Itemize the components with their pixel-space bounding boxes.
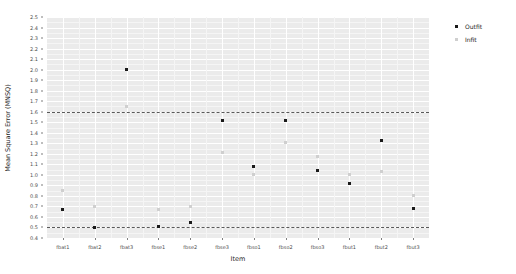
y-axis-tick-mark — [41, 69, 43, 70]
data-point-outfit-fbat3 — [125, 68, 128, 71]
x-axis-tick-label-fbat3: fbat3 — [120, 244, 133, 250]
y-axis-tick-mark — [41, 206, 43, 207]
data-point-outfit-fbso3 — [316, 169, 319, 172]
gridline-vertical-minor — [365, 17, 366, 238]
legend-marker-icon — [455, 25, 458, 28]
gridline-vertical — [381, 17, 382, 238]
gridline-vertical — [222, 17, 223, 238]
data-point-infit-fbut3 — [412, 194, 415, 197]
x-axis-tick-label-fbso2: fbso2 — [279, 244, 293, 250]
x-axis-tick-mark — [318, 238, 319, 240]
legend: OutfitInfit — [452, 20, 514, 46]
y-axis-tick-mark — [41, 38, 43, 39]
data-point-infit-fbut2 — [380, 170, 383, 173]
legend-marker-icon — [455, 38, 458, 41]
y-axis-tick-mark — [41, 17, 43, 18]
x-axis-tick-label-fbut3: fbut3 — [406, 244, 419, 250]
gridline-vertical — [318, 17, 319, 238]
x-axis-tick-mark — [127, 238, 128, 240]
y-axis-tick-mark — [41, 132, 43, 133]
gridline-vertical — [254, 17, 255, 238]
y-axis-tick-label: 1.9 — [30, 78, 38, 83]
data-point-infit-fbat3 — [125, 105, 128, 108]
data-point-outfit-fbat2 — [93, 226, 96, 229]
y-axis-tick-label: 0.5 — [30, 225, 38, 230]
y-axis-tick-label: 2.5 — [30, 15, 38, 20]
x-axis-tick-mark — [63, 238, 64, 240]
gridline-vertical-minor — [143, 17, 144, 238]
gridline-vertical-minor — [270, 17, 271, 238]
gridline-vertical-minor — [238, 17, 239, 238]
data-point-infit-fbut1 — [348, 173, 351, 176]
y-axis-tick-mark — [41, 216, 43, 217]
x-axis-tick-label-fbse2: fbse2 — [183, 244, 197, 250]
x-axis-title: Item — [47, 255, 429, 263]
data-point-infit-fbse1 — [157, 208, 160, 211]
data-point-infit-fbat1 — [61, 189, 64, 192]
data-point-outfit-fbso1 — [252, 165, 255, 168]
y-axis-tick-label: 1.3 — [30, 141, 38, 146]
y-axis-tick-mark — [41, 80, 43, 81]
data-point-infit-fbso1 — [252, 173, 255, 176]
y-axis-tick-label: 1.7 — [30, 99, 38, 104]
x-axis-tick-label-fbse3: fbse3 — [215, 244, 229, 250]
data-point-infit-fbat2 — [93, 205, 96, 208]
data-point-outfit-fbse3 — [221, 119, 224, 122]
lower-reference-line — [47, 227, 429, 228]
plot-panel — [47, 17, 429, 238]
y-axis-tick-mark — [41, 185, 43, 186]
x-axis-tick-label-fbut1: fbut1 — [343, 244, 356, 250]
y-axis-tick-label: 1.6 — [30, 109, 38, 114]
y-axis-tick-label: 1.1 — [30, 162, 38, 167]
y-axis-tick-label: 2.4 — [30, 25, 38, 30]
x-axis-tick-mark — [349, 238, 350, 240]
y-axis-tick-mark — [41, 122, 43, 123]
y-axis-tick-mark — [41, 101, 43, 102]
y-axis-tick-label: 1.8 — [30, 88, 38, 93]
gridline-vertical — [349, 17, 350, 238]
y-axis-tick-labels: 0.40.50.60.70.80.91.01.11.21.31.41.51.61… — [0, 17, 45, 238]
y-axis-tick-label: 1.5 — [30, 120, 38, 125]
y-axis-tick-label: 2.1 — [30, 57, 38, 62]
y-axis-tick-mark — [41, 143, 43, 144]
x-axis-tick-mark — [95, 238, 96, 240]
legend-item-infit[interactable]: Infit — [452, 33, 514, 46]
y-axis-tick-mark — [41, 48, 43, 49]
x-axis-tick-label-fbat1: fbat1 — [56, 244, 69, 250]
data-point-outfit-fbse2 — [189, 221, 192, 224]
x-axis-tick-label-fbso3: fbso3 — [311, 244, 325, 250]
data-point-infit-fbse3 — [221, 151, 224, 154]
y-axis-tick-mark — [41, 111, 43, 112]
y-axis-tick-mark — [41, 174, 43, 175]
data-point-infit-fbso3 — [316, 155, 319, 158]
y-axis-tick-label: 2.3 — [30, 36, 38, 41]
gridline-vertical-minor — [206, 17, 207, 238]
y-axis-tick-mark — [41, 59, 43, 60]
data-point-outfit-fbut2 — [380, 139, 383, 142]
x-axis-tick-mark — [158, 238, 159, 240]
gridline-vertical — [158, 17, 159, 238]
gridline-vertical — [413, 17, 414, 238]
x-axis-tick-label-fbse1: fbse1 — [152, 244, 166, 250]
gridline-vertical-minor — [334, 17, 335, 238]
y-axis-tick-mark — [41, 90, 43, 91]
gridline-vertical — [127, 17, 128, 238]
data-point-outfit-fbse1 — [157, 225, 160, 228]
y-axis-tick-label: 0.4 — [30, 236, 38, 241]
y-axis-tick-label: 1.4 — [30, 130, 38, 135]
y-axis-tick-label: 1.0 — [30, 172, 38, 177]
x-axis-tick-labels: fbat1fbat2fbat3fbse1fbse2fbse3fbso1fbso2… — [47, 238, 429, 254]
y-axis-tick-label: 2.0 — [30, 67, 38, 72]
gridline-vertical-minor — [79, 17, 80, 238]
legend-label: Infit — [465, 36, 477, 43]
y-axis-tick-label: 0.8 — [30, 193, 38, 198]
data-point-infit-fbso2 — [284, 141, 287, 144]
legend-item-outfit[interactable]: Outfit — [452, 20, 514, 33]
gridline-vertical — [286, 17, 287, 238]
gridline-vertical-minor — [397, 17, 398, 238]
y-axis-tick-mark — [41, 238, 43, 239]
upper-reference-line — [47, 112, 429, 113]
data-point-outfit-fbut3 — [412, 207, 415, 210]
y-axis-tick-label: 0.9 — [30, 183, 38, 188]
x-axis-tick-mark — [413, 238, 414, 240]
